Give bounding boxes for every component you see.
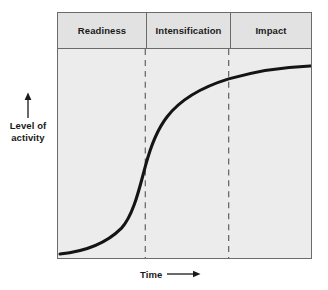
phase-label-readiness: Readiness — [78, 25, 126, 36]
arrow-up-icon — [2, 92, 54, 118]
plot-svg — [58, 49, 311, 258]
plot-area — [58, 49, 311, 258]
diagram-canvas: Level of activity Readiness Intensificat… — [0, 0, 328, 290]
phase-label-intensification: Intensification — [156, 25, 222, 36]
phase-header-impact: Impact — [230, 13, 311, 48]
arrow-right-icon — [167, 268, 201, 280]
phase-header-row: Readiness Intensification Impact — [58, 13, 311, 49]
chart-frame: Readiness Intensification Impact — [57, 12, 312, 259]
y-axis-label-line-1: Level of — [2, 120, 54, 132]
phase-header-readiness: Readiness — [58, 13, 146, 48]
phase-header-intensification: Intensification — [146, 13, 230, 48]
y-axis-label: Level of activity — [2, 120, 54, 144]
x-axis-label: Time — [140, 269, 162, 280]
x-axis-label-group: Time — [140, 268, 250, 280]
activity-curve — [60, 66, 310, 254]
phase-label-impact: Impact — [255, 25, 286, 36]
y-axis-label-line-2: activity — [2, 132, 54, 144]
y-axis-label-group: Level of activity — [2, 92, 54, 144]
